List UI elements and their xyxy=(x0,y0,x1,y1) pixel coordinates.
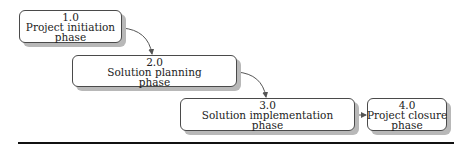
phase-suffix: phase xyxy=(252,120,283,130)
phase-diagram: 1.0 Project initiation phase 2.0 Solutio… xyxy=(0,0,468,155)
bottom-rule xyxy=(18,142,454,144)
phase-suffix: phase xyxy=(139,77,170,87)
phase-suffix: phase xyxy=(391,120,422,130)
phase-box-closure: 4.0 Project closure phase xyxy=(367,98,447,131)
phase-box-planning: 2.0 Solution planning phase xyxy=(72,55,237,87)
phase-box-implementation: 3.0 Solution implementation phase xyxy=(180,98,355,131)
phase-title: Solution planning xyxy=(107,67,201,77)
phase-box-initiation: 1.0 Project initiation phase xyxy=(19,10,122,43)
phase-number: 2.0 xyxy=(146,57,163,67)
connector-2-to-3 xyxy=(237,72,266,97)
phase-suffix: phase xyxy=(55,32,86,42)
connector-1-to-2 xyxy=(122,28,152,54)
